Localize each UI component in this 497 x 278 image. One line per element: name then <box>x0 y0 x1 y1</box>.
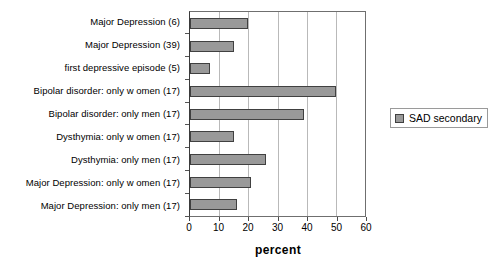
x-tick <box>219 217 220 221</box>
bar-slot <box>190 35 365 58</box>
x-tick-label: 20 <box>242 222 253 233</box>
bar <box>190 109 304 120</box>
bar <box>190 41 234 52</box>
category-label: Dysthymia: only men (17) <box>0 148 185 171</box>
bars-layer <box>190 12 365 216</box>
bar <box>190 86 336 97</box>
x-tick <box>248 217 249 221</box>
bar-slot <box>190 57 365 80</box>
x-tick <box>337 217 338 221</box>
x-axis-title: percent <box>189 243 367 257</box>
category-label: Bipolar disorder: only men (17) <box>0 103 185 126</box>
x-tick-label: 40 <box>301 222 312 233</box>
x-tick <box>366 217 367 221</box>
bar <box>190 63 210 74</box>
plot-area <box>189 11 366 217</box>
bar <box>190 131 234 142</box>
bar-slot <box>190 103 365 126</box>
bar-chart: Major Depression (6)Major Depression (39… <box>0 0 497 278</box>
x-tick-label: 60 <box>360 222 371 233</box>
x-axis-tick-labels: 0102030405060 <box>189 222 367 236</box>
category-label: first depressive episode (5) <box>0 57 185 80</box>
bar <box>190 199 237 210</box>
category-label: Major Depression (6) <box>0 11 185 34</box>
x-tick-label: 30 <box>272 222 283 233</box>
x-tick <box>307 217 308 221</box>
x-tick <box>278 217 279 221</box>
bar <box>190 18 248 29</box>
bar-slot <box>190 148 365 171</box>
x-tick-label: 10 <box>213 222 224 233</box>
category-label: Dysthymia: only w omen (17) <box>0 125 185 148</box>
legend-swatch-sad-secondary <box>395 114 404 123</box>
category-label: Bipolar disorder: only w omen (17) <box>0 80 185 103</box>
bar <box>190 177 251 188</box>
bar-slot <box>190 12 365 35</box>
bar-slot <box>190 171 365 194</box>
x-tick <box>189 217 190 221</box>
category-label: Major Depression (39) <box>0 34 185 57</box>
x-tick-label: 50 <box>331 222 342 233</box>
bar-slot <box>190 193 365 216</box>
x-tick-label: 0 <box>186 222 192 233</box>
chart-legend: SAD secondary <box>390 108 488 128</box>
category-axis-labels: Major Depression (6)Major Depression (39… <box>0 11 185 217</box>
bar-slot <box>190 125 365 148</box>
bar-slot <box>190 80 365 103</box>
category-label: Major Depression: only men (17) <box>0 194 185 217</box>
bar <box>190 154 266 165</box>
legend-label-sad-secondary: SAD secondary <box>409 112 482 124</box>
category-label: Major Depression: only w omen (17) <box>0 171 185 194</box>
